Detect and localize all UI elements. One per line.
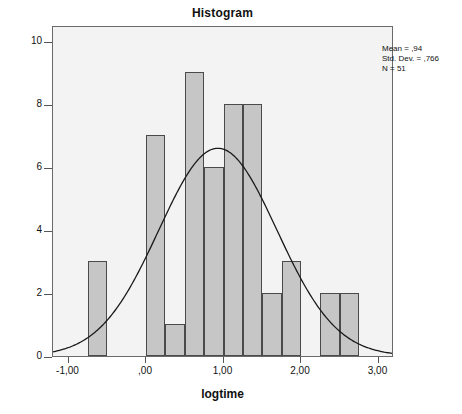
x-axis-tick — [223, 357, 224, 363]
x-axis-tick-label: 2,00 — [275, 365, 325, 376]
y-axis-tick-label: 2 — [0, 287, 42, 298]
y-axis-tick — [44, 357, 52, 358]
x-axis-tick — [145, 357, 146, 363]
y-axis-tick — [44, 105, 52, 106]
plot-area — [52, 26, 393, 357]
x-axis-tick-label: 3,00 — [353, 365, 403, 376]
stat-std-dev: Std. Dev. = ,766 — [382, 54, 439, 64]
y-axis-tick — [44, 42, 52, 43]
histogram-figure: Histogram 0246810 -1,00,001,002,003,00 F… — [0, 0, 462, 414]
y-axis-tick-label: 8 — [0, 98, 42, 109]
x-axis-title: logtime — [52, 387, 393, 401]
x-axis-tick — [378, 357, 379, 363]
y-axis-tick-label: 0 — [0, 350, 42, 361]
x-axis-tick — [68, 357, 69, 363]
x-axis-tick-label: ,00 — [120, 365, 170, 376]
y-axis-tick-label: 4 — [0, 224, 42, 235]
x-axis-tick-label: -1,00 — [43, 365, 93, 376]
statistics-annotation: Mean = ,94 Std. Dev. = ,766 N = 51 — [382, 44, 439, 74]
stat-n: N = 51 — [382, 64, 439, 74]
y-axis-tick-label: 10 — [0, 35, 42, 46]
y-axis-tick — [44, 168, 52, 169]
stat-mean: Mean = ,94 — [382, 44, 439, 54]
normal-curve-overlay — [53, 27, 392, 356]
x-axis-tick-label: 1,00 — [198, 365, 248, 376]
x-axis-tick — [300, 357, 301, 363]
chart-title: Histogram — [52, 6, 393, 20]
y-axis-tick — [44, 294, 52, 295]
normal-curve-path — [53, 148, 392, 353]
y-axis-tick-label: 6 — [0, 161, 42, 172]
y-axis-tick — [44, 231, 52, 232]
